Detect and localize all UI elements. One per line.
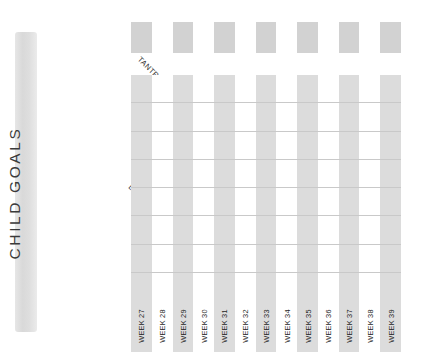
grid-cell[interactable]: [380, 75, 401, 103]
totals-cell[interactable]: [359, 22, 380, 53]
grid-cell[interactable]: [297, 132, 318, 160]
grid-cell[interactable]: [256, 273, 277, 300]
grid-cell[interactable]: [297, 273, 318, 300]
week-column-header[interactable]: WEEK 32: [235, 300, 256, 352]
grid-cell[interactable]: [359, 103, 380, 131]
grid-cell[interactable]: [359, 273, 380, 300]
grid-cell[interactable]: [256, 103, 277, 131]
totals-cell[interactable]: [173, 22, 194, 53]
grid-cell[interactable]: [359, 75, 380, 103]
grid-cell[interactable]: [193, 273, 214, 300]
totals-cell[interactable]: [297, 22, 318, 53]
grid-cell[interactable]: [380, 273, 401, 300]
grid-cell[interactable]: [152, 160, 173, 188]
grid-cell[interactable]: [173, 273, 194, 300]
week-column-header[interactable]: WEEK 39: [380, 300, 401, 352]
grid-cell[interactable]: [131, 103, 152, 131]
grid-cell[interactable]: [256, 188, 277, 216]
grid-cell[interactable]: [173, 188, 194, 216]
grid-cell[interactable]: [193, 216, 214, 244]
grid-cell[interactable]: [276, 188, 297, 216]
grid-cell[interactable]: [131, 188, 152, 216]
totals-cell[interactable]: [276, 22, 297, 53]
grid-cell[interactable]: [256, 75, 277, 103]
week-column-header[interactable]: WEEK 28: [152, 300, 173, 352]
grid-cell[interactable]: [297, 216, 318, 244]
grid-cell[interactable]: [152, 132, 173, 160]
grid-cell[interactable]: [173, 132, 194, 160]
grid-cell[interactable]: [276, 245, 297, 273]
grid-cell[interactable]: [256, 132, 277, 160]
grid-cell[interactable]: [297, 245, 318, 273]
grid-cell[interactable]: [359, 160, 380, 188]
grid-cell[interactable]: [235, 273, 256, 300]
grid-cell[interactable]: [297, 188, 318, 216]
grid-cell[interactable]: [318, 75, 339, 103]
grid-cell[interactable]: [131, 75, 152, 103]
grid-cell[interactable]: [131, 160, 152, 188]
week-column-header[interactable]: WEEK 35: [297, 300, 318, 352]
grid-cell[interactable]: [297, 103, 318, 131]
grid-cell[interactable]: [214, 188, 235, 216]
grid-cell[interactable]: [339, 273, 360, 300]
grid-cell[interactable]: [131, 216, 152, 244]
grid-cell[interactable]: [318, 273, 339, 300]
grid-cell[interactable]: [276, 273, 297, 300]
week-column-header[interactable]: WEEK 34: [276, 300, 297, 352]
grid-cell[interactable]: [193, 160, 214, 188]
grid-cell[interactable]: [152, 216, 173, 244]
grid-cell[interactable]: [131, 245, 152, 273]
grid-cell[interactable]: [276, 160, 297, 188]
grid-cell[interactable]: [359, 245, 380, 273]
totals-cell[interactable]: [131, 22, 152, 53]
grid-cell[interactable]: [173, 245, 194, 273]
grid-cell[interactable]: [193, 75, 214, 103]
totals-cell[interactable]: [235, 22, 256, 53]
grid-cell[interactable]: [380, 132, 401, 160]
grid-cell[interactable]: [339, 75, 360, 103]
grid-cell[interactable]: [297, 75, 318, 103]
grid-cell[interactable]: [276, 132, 297, 160]
grid-cell[interactable]: [235, 216, 256, 244]
totals-cell[interactable]: [152, 22, 173, 53]
grid-cell[interactable]: [152, 188, 173, 216]
grid-cell[interactable]: [318, 188, 339, 216]
grid-cell[interactable]: [173, 103, 194, 131]
week-column-header[interactable]: WEEK 33: [256, 300, 277, 352]
grid-cell[interactable]: [152, 273, 173, 300]
grid-cell[interactable]: [173, 75, 194, 103]
grid-cell[interactable]: [131, 273, 152, 300]
totals-cell[interactable]: [318, 22, 339, 53]
week-column-header[interactable]: WEEK 27: [131, 300, 152, 352]
grid-cell[interactable]: [235, 75, 256, 103]
grid-cell[interactable]: [318, 132, 339, 160]
week-column-header[interactable]: WEEK 38: [359, 300, 380, 352]
grid-cell[interactable]: [380, 160, 401, 188]
grid-cell[interactable]: [173, 160, 194, 188]
grid-cell[interactable]: [276, 103, 297, 131]
grid-cell[interactable]: [276, 216, 297, 244]
week-column-header[interactable]: WEEK 29: [173, 300, 194, 352]
grid-cell[interactable]: [318, 160, 339, 188]
grid-cell[interactable]: [359, 216, 380, 244]
grid-cell[interactable]: [380, 245, 401, 273]
grid-cell[interactable]: [214, 103, 235, 131]
grid-cell[interactable]: [359, 188, 380, 216]
totals-cell[interactable]: [339, 22, 360, 53]
grid-cell[interactable]: [256, 160, 277, 188]
grid-cell[interactable]: [380, 188, 401, 216]
grid-cell[interactable]: [152, 75, 173, 103]
grid-cell[interactable]: [339, 103, 360, 131]
grid-cell[interactable]: [235, 160, 256, 188]
grid-cell[interactable]: [339, 160, 360, 188]
grid-cell[interactable]: [152, 245, 173, 273]
grid-cell[interactable]: [318, 103, 339, 131]
grid-cell[interactable]: [339, 216, 360, 244]
grid-cell[interactable]: [235, 132, 256, 160]
grid-cell[interactable]: [276, 75, 297, 103]
grid-cell[interactable]: [256, 216, 277, 244]
week-column-header[interactable]: WEEK 31: [214, 300, 235, 352]
totals-cell[interactable]: [256, 22, 277, 53]
grid-cell[interactable]: [339, 188, 360, 216]
grid-cell[interactable]: [193, 188, 214, 216]
